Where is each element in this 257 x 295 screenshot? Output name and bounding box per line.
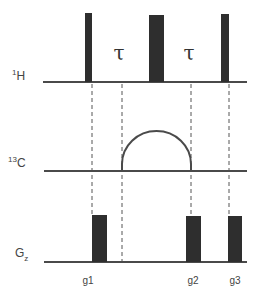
label-gz-sub: z — [24, 254, 28, 263]
delay-tau-1: τ — [113, 41, 124, 65]
gradient-g3 — [228, 216, 242, 262]
label-13c-main: C — [17, 156, 26, 170]
adiabatic-pulse-arc — [122, 131, 191, 171]
label-gz: Gz — [15, 246, 28, 263]
label-gz-main: G — [15, 246, 24, 260]
label-1h-main: H — [16, 69, 25, 83]
pulse-sequence-svg: 1H 13C Gz τ τ g1 g2 g3 — [0, 0, 257, 295]
gradient-g1 — [92, 215, 107, 262]
pulse-sequence-diagram: 1H 13C Gz τ τ g1 g2 g3 — [0, 0, 257, 295]
gradient-label-g2: g2 — [187, 275, 199, 286]
pulse-90-last — [221, 14, 229, 82]
pulse-90-first — [85, 13, 92, 82]
label-1h: 1H — [12, 68, 25, 83]
channel-1h — [43, 13, 247, 82]
pulse-180 — [149, 15, 164, 82]
gradient-g2 — [186, 216, 201, 262]
gradient-label-g3: g3 — [229, 275, 241, 286]
label-13c: 13C — [8, 155, 26, 170]
delay-tau-2: τ — [183, 41, 194, 65]
gradient-label-g1: g1 — [82, 275, 94, 286]
channel-13c — [44, 131, 247, 171]
channel-gz — [44, 215, 247, 262]
timing-lines — [92, 84, 229, 262]
